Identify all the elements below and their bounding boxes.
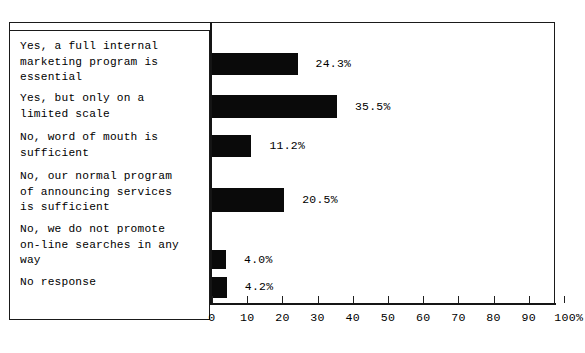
x-tick-label-20: 20 (275, 311, 290, 324)
category-label-5: No response (20, 275, 208, 291)
bar-5 (212, 277, 227, 298)
bar-1 (212, 95, 337, 118)
x-tick-40 (353, 296, 354, 303)
x-tick-label-90: 90 (522, 311, 537, 324)
x-tick-label-40: 40 (346, 311, 361, 324)
bar-value-4: 4.0% (244, 254, 273, 266)
bar-2 (212, 135, 251, 157)
bar-3 (212, 188, 284, 212)
x-axis-line (210, 303, 556, 305)
x-tick-20 (282, 296, 283, 303)
x-tick-label-30: 30 (310, 311, 325, 324)
x-tick-100 (564, 296, 565, 303)
x-tick-label-70: 70 (451, 311, 466, 324)
category-label-4: No, we do not promote on-line searches i… (20, 222, 208, 269)
x-tick-60 (423, 296, 424, 303)
category-label-2: No, word of mouth is sufficient (20, 130, 208, 161)
category-label-3: No, our normal program of announcing ser… (20, 169, 208, 216)
x-tick-90 (529, 296, 530, 303)
category-label-0: Yes, a full internal marketing program i… (20, 39, 208, 86)
x-tick-30 (318, 296, 319, 303)
x-tick-0 (212, 296, 213, 303)
bar-value-3: 20.5% (302, 194, 338, 206)
x-tick-label-100: 100% (554, 311, 583, 324)
bar-0 (212, 53, 298, 75)
x-tick-80 (494, 296, 495, 303)
x-tick-label-50: 50 (381, 311, 396, 324)
x-tick-label-10: 10 (240, 311, 255, 324)
x-tick-70 (458, 296, 459, 303)
bar-value-0: 24.3% (316, 58, 352, 70)
category-label-box: Yes, a full internal marketing program i… (9, 30, 210, 320)
x-tick-label-60: 60 (416, 311, 431, 324)
x-tick-label-80: 80 (486, 311, 501, 324)
category-label-1: Yes, but only on a limited scale (20, 91, 208, 122)
bar-value-1: 35.5% (355, 101, 391, 113)
bar-value-5: 4.2% (245, 281, 274, 293)
bar-4 (212, 250, 226, 269)
x-tick-50 (388, 296, 389, 303)
plot-area: 24.3% 35.5% 11.2% 20.5% 4.0% 4.2% 010203… (210, 22, 555, 305)
x-tick-label-0: 0 (208, 311, 215, 324)
x-tick-10 (247, 296, 248, 303)
bar-value-2: 11.2% (269, 140, 305, 152)
